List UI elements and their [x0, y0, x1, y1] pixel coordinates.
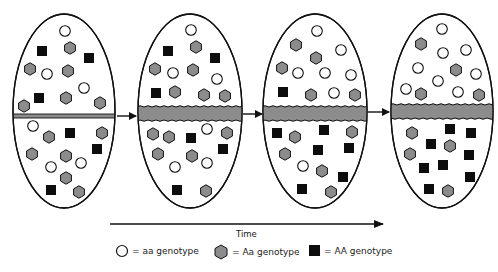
legend-label-aa: = aa genotype	[132, 246, 199, 256]
Aa-individual-hexagon-icon	[187, 150, 198, 162]
geographic-barrier	[136, 106, 244, 122]
AA-individual-square-icon	[419, 163, 429, 173]
AA-individual-square-icon	[297, 184, 307, 194]
aa-individual-circle-icon	[186, 25, 197, 36]
Aa-individual-hexagon-icon	[188, 64, 199, 76]
Aa-individual-hexagon-icon	[170, 86, 181, 98]
geographic-barrier	[13, 114, 115, 118]
Aa-individual-hexagon-icon	[306, 89, 317, 101]
aa-individual-circle-icon	[461, 45, 472, 56]
AA-individual-square-icon	[172, 185, 182, 195]
population-1	[13, 14, 115, 208]
legend-item-aa: = aa genotype	[115, 244, 199, 258]
Aa-individual-hexagon-icon	[150, 63, 161, 75]
Aa-individual-hexagon-icon	[27, 148, 38, 160]
AA-individual-square-icon	[46, 185, 56, 195]
aa-individual-circle-icon	[471, 69, 482, 80]
aa-individual-circle-icon	[168, 68, 179, 79]
Aa-individual-hexagon-icon	[95, 97, 106, 109]
geographic-barrier	[261, 106, 369, 122]
aa-individual-circle-icon	[401, 84, 412, 95]
AA-individual-square-icon	[344, 143, 354, 153]
geographic-barrier	[389, 104, 495, 120]
Aa-individual-hexagon-icon	[445, 140, 456, 152]
Aa-individual-hexagon-icon	[326, 186, 337, 198]
Aa-individual-hexagon-icon	[405, 148, 416, 160]
square-icon	[308, 244, 321, 257]
AA-individual-square-icon	[338, 172, 348, 182]
hexagon-icon	[213, 244, 229, 260]
Aa-individual-hexagon-icon	[291, 39, 302, 51]
Aa-individual-hexagon-icon	[148, 128, 159, 140]
Aa-individual-hexagon-icon	[164, 131, 175, 143]
Aa-individual-hexagon-icon	[201, 185, 212, 197]
legend: = aa genotype = Aa genotype = AA genotyp…	[0, 244, 498, 266]
Aa-individual-hexagon-icon	[44, 131, 55, 143]
AA-individual-square-icon	[272, 128, 282, 138]
aa-individual-circle-icon	[346, 70, 357, 81]
Aa-individual-hexagon-icon	[347, 126, 358, 138]
Aa-individual-hexagon-icon	[199, 89, 210, 101]
aa-individual-circle-icon	[212, 74, 223, 85]
aa-individual-circle-icon	[298, 161, 309, 172]
Aa-individual-hexagon-icon	[25, 63, 36, 75]
Aa-individual-hexagon-icon	[97, 127, 108, 139]
Aa-individual-hexagon-icon	[19, 100, 30, 112]
legend-item-Aa: = Aa genotype	[213, 244, 300, 260]
legend-item-AA: = AA genotype	[308, 244, 392, 257]
AA-individual-square-icon	[186, 133, 196, 143]
AA-individual-square-icon	[426, 139, 436, 149]
Aa-individual-hexagon-icon	[443, 185, 454, 197]
Aa-individual-hexagon-icon	[290, 131, 301, 143]
circle-icon	[115, 244, 129, 258]
Aa-individual-hexagon-icon	[191, 41, 202, 53]
Aa-individual-hexagon-icon	[416, 38, 427, 50]
aa-individual-circle-icon	[413, 63, 424, 74]
AA-individual-square-icon	[34, 93, 44, 103]
AA-individual-square-icon	[319, 125, 329, 135]
population-3	[261, 14, 369, 208]
aa-individual-circle-icon	[312, 26, 323, 37]
AA-individual-square-icon	[65, 128, 75, 138]
AA-individual-square-icon	[445, 124, 455, 134]
AA-individual-square-icon	[92, 144, 102, 154]
Aa-individual-hexagon-icon	[222, 127, 233, 139]
AA-individual-square-icon	[210, 53, 220, 63]
aa-individual-circle-icon	[329, 88, 340, 99]
population-4	[389, 14, 495, 208]
AA-individual-square-icon	[465, 172, 475, 182]
Aa-individual-hexagon-icon	[220, 90, 231, 102]
Aa-individual-hexagon-icon	[280, 148, 291, 160]
AA-individual-square-icon	[163, 46, 173, 56]
aa-individual-circle-icon	[28, 121, 39, 132]
legend-label-Aa: = Aa genotype	[232, 247, 300, 257]
Aa-individual-hexagon-icon	[61, 172, 72, 184]
aa-individual-circle-icon	[293, 68, 304, 79]
Aa-individual-hexagon-icon	[153, 148, 164, 160]
AA-individual-square-icon	[464, 150, 474, 160]
Aa-individual-hexagon-icon	[416, 88, 427, 100]
Aa-individual-hexagon-icon	[317, 165, 328, 177]
AA-individual-square-icon	[278, 87, 288, 97]
Aa-individual-hexagon-icon	[311, 52, 322, 64]
aa-individual-circle-icon	[438, 48, 449, 59]
aa-individual-circle-icon	[202, 124, 213, 135]
aa-individual-circle-icon	[437, 24, 448, 35]
time-axis-label: Time	[236, 229, 257, 239]
aa-individual-circle-icon	[46, 162, 57, 173]
aa-individual-circle-icon	[170, 162, 181, 173]
aa-individual-circle-icon	[79, 83, 90, 94]
AA-individual-square-icon	[37, 46, 47, 56]
aa-individual-circle-icon	[320, 68, 331, 79]
Aa-individual-hexagon-icon	[474, 89, 485, 101]
population-2	[136, 14, 244, 208]
aa-individual-circle-icon	[453, 87, 464, 98]
Aa-individual-hexagon-icon	[350, 89, 361, 101]
AA-individual-square-icon	[438, 160, 448, 170]
aa-individual-circle-icon	[76, 158, 87, 169]
Aa-individual-hexagon-icon	[65, 42, 76, 54]
aa-individual-circle-icon	[336, 45, 347, 56]
AA-individual-square-icon	[466, 128, 476, 138]
AA-individual-square-icon	[151, 88, 161, 98]
aa-individual-circle-icon	[202, 158, 213, 169]
